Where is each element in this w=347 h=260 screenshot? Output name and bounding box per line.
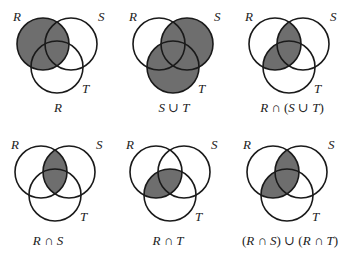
label-R: R [242, 137, 251, 152]
label-R: R [10, 137, 19, 152]
label-T: T [80, 209, 88, 224]
label-T: T [82, 81, 90, 96]
label-T: T [312, 209, 320, 224]
label-T: T [195, 209, 203, 224]
venn-R-cap-S-union-T: RSTR ∩ (S ∪ T) [244, 9, 337, 115]
label-T: T [198, 81, 206, 96]
label-S: S [328, 137, 335, 152]
label-S: S [214, 9, 221, 24]
label-S: S [211, 137, 218, 152]
label-R: R [125, 137, 134, 152]
caption-RS-union-RT: (R ∩ S) ∪ (R ∩ T) [242, 233, 338, 248]
label-R: R [12, 9, 21, 24]
caption-S-union-T: S ∪ T [158, 100, 190, 115]
venn-R: RSTR [12, 9, 105, 115]
caption-R: R [53, 100, 62, 115]
label-S: S [330, 9, 337, 24]
label-R: R [244, 9, 253, 24]
label-T: T [314, 81, 322, 96]
caption-R-cap-S-union-T: R ∩ (S ∪ T) [259, 100, 324, 115]
caption-R-cap-S: R ∩ S [32, 233, 64, 248]
label-S: S [96, 137, 103, 152]
label-R: R [128, 9, 137, 24]
caption-R-cap-T: R ∩ T [151, 233, 184, 248]
venn-S-union-T: RSTS ∪ T [128, 9, 221, 115]
venn-R-cap-S: RSTR ∩ S [10, 137, 103, 248]
venn-RS-union-RT: RST(R ∩ S) ∪ (R ∩ T) [242, 137, 338, 248]
venn-diagram-grid: RSTRRSTS ∪ TRSTR ∩ (S ∪ T)RSTR ∩ SRSTR ∩… [0, 0, 347, 260]
label-S: S [98, 9, 105, 24]
venn-R-cap-T: RSTR ∩ T [125, 137, 218, 248]
